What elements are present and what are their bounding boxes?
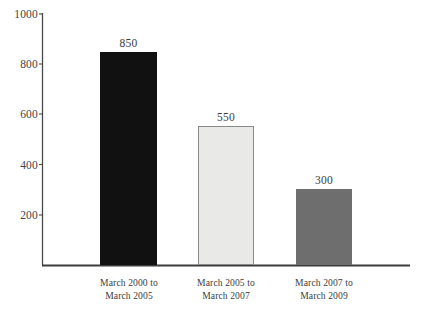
y-tick-label-800: 800 [0, 58, 38, 70]
y-tick-label-text: 400 [2, 159, 38, 171]
y-tick-label-text: 600 [2, 108, 38, 120]
bar-value-label-1: 850 [100, 37, 157, 49]
y-tick-label-1000: 1000 [0, 8, 38, 20]
y-tick-label-text: 1000 [2, 8, 38, 20]
category-label-2-line-2: March 2007 [175, 290, 277, 303]
category-label-3-line-1: March 2007 to [295, 277, 353, 288]
category-label-2-line-1: March 2005 to [197, 277, 255, 288]
bar-series-1[interactable] [100, 52, 157, 265]
category-label-2: March 2005 to March 2007 [175, 277, 277, 302]
category-label-3-line-2: March 2009 [273, 290, 375, 303]
y-tick-label-200: 200 [0, 209, 38, 221]
category-label-1: March 2000 to March 2005 [78, 277, 180, 302]
category-label-1-line-1: March 2000 to [100, 277, 158, 288]
bar-value-label-3: 300 [296, 174, 352, 186]
y-tick-label-400: 400 [0, 159, 38, 171]
y-tick-label-text: 800 [2, 58, 38, 70]
category-label-1-line-2: March 2005 [78, 290, 180, 303]
bar-value-label-2: 550 [198, 111, 254, 123]
bar-chart: 1000 800 600 400 200 850 550 300 March 2… [0, 0, 423, 311]
bar-series-2[interactable] [198, 126, 254, 265]
bar-series-3[interactable] [296, 189, 352, 265]
y-tick-label-600: 600 [0, 108, 38, 120]
category-label-3: March 2007 to March 2009 [273, 277, 375, 302]
y-tick-label-text: 200 [2, 209, 38, 221]
